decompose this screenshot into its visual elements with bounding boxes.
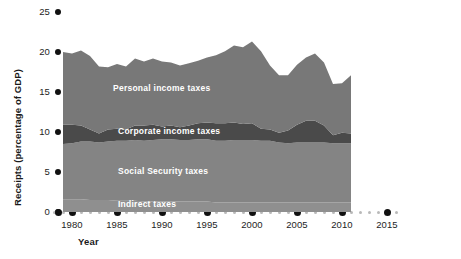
stacked-area-plot	[0, 0, 461, 259]
band-label: Corporate income taxes	[118, 126, 220, 136]
band-label: Personal income taxes	[113, 83, 210, 93]
band-label: Indirect taxes	[118, 199, 176, 209]
area-chart: Receipts (percentage of GDP) 0510152025 …	[0, 0, 461, 259]
x-axis-title: Year	[78, 236, 99, 247]
band-label: Social Security taxes	[118, 166, 208, 176]
